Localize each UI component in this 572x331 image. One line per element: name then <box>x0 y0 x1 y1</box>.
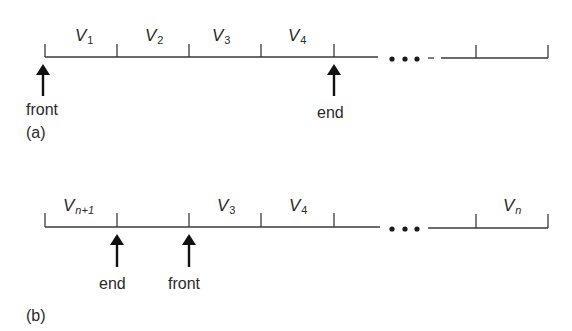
cell-label-subscript: 3 <box>229 204 235 216</box>
cell-label-v2: V2 <box>145 26 163 46</box>
cell-label-subscript: 4 <box>301 204 307 216</box>
queue-diagram-lines <box>0 0 572 331</box>
pointer-label-front: front <box>168 275 200 293</box>
panel-caption-b: (b) <box>26 307 46 325</box>
pointer-label-front: front <box>26 101 58 119</box>
cell-label-main: V <box>63 196 74 215</box>
cell-label-v1: V1 <box>75 26 93 46</box>
cell-label-v3: V3 <box>217 196 235 216</box>
cell-label-main: V <box>289 196 300 215</box>
pointer-label-end: end <box>317 104 344 122</box>
cell-label-vn: Vn <box>503 196 521 216</box>
cell-label-subscript: 3 <box>224 34 230 46</box>
pointer-arrows <box>36 64 341 267</box>
cell-label-main: V <box>503 196 514 215</box>
ellipsis-dots <box>389 56 419 231</box>
panel-a-array <box>45 44 548 58</box>
cell-label-main: V <box>217 196 228 215</box>
pointer-label-end: end <box>99 275 126 293</box>
cell-label-subscript: 2 <box>157 34 163 46</box>
cell-label-subscript: n+1 <box>75 204 94 216</box>
cell-label-main: V <box>145 26 156 45</box>
cell-label-main: V <box>75 26 86 45</box>
panel-caption-a: (a) <box>26 124 46 142</box>
cell-label-vn1: Vn+1 <box>63 196 94 216</box>
cell-label-subscript: 1 <box>87 34 93 46</box>
cell-label-v3: V3 <box>212 26 230 46</box>
cell-label-main: V <box>288 26 299 45</box>
cell-label-subscript: 4 <box>300 34 306 46</box>
cell-label-v4: V4 <box>289 196 307 216</box>
cell-label-subscript: n <box>515 204 521 216</box>
cell-label-v4: V4 <box>288 26 306 46</box>
cell-label-main: V <box>212 26 223 45</box>
